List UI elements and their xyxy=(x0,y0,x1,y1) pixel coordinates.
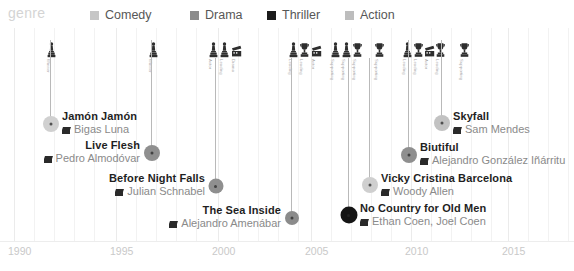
event-dot-center xyxy=(290,217,293,220)
event-label[interactable]: Jamón JamónBigas Luna xyxy=(62,110,137,137)
award-caption: Actor xyxy=(311,59,316,69)
clapperboard-icon xyxy=(44,156,52,163)
masks-icon xyxy=(311,42,322,58)
event-title: Vicky Cristina Barcelona xyxy=(381,172,512,185)
axis-tick-label: 1990 xyxy=(8,245,31,257)
legend-item-comedy[interactable]: Comedy xyxy=(90,8,152,22)
clapperboard-icon xyxy=(169,221,177,228)
statuette-icon xyxy=(46,42,57,58)
clapperboard-icon xyxy=(381,189,389,196)
event-director-row: Ethan Coen, Joel Coen xyxy=(360,215,486,228)
event-title: Skyfall xyxy=(453,110,530,123)
clapperboard-icon xyxy=(62,127,70,134)
event-dot[interactable] xyxy=(401,147,417,163)
event-dot-center xyxy=(368,184,371,187)
event-dot[interactable] xyxy=(208,179,223,194)
trophy-icon xyxy=(299,42,310,58)
legend-item-label: Comedy xyxy=(105,8,152,22)
axis-rule xyxy=(0,241,574,242)
event-dot[interactable] xyxy=(434,115,450,131)
legend-swatch-icon xyxy=(267,11,276,20)
statuette-icon xyxy=(148,42,159,58)
statuette-icon xyxy=(219,42,230,58)
event-director: Bigas Luna xyxy=(74,123,129,136)
legend-item-thriller[interactable]: Thriller xyxy=(267,8,320,22)
clapperboard-icon xyxy=(420,158,428,165)
legend-item-label: Drama xyxy=(205,8,243,22)
event-dot[interactable] xyxy=(144,145,160,161)
axis-tick-label: 1995 xyxy=(110,245,133,257)
event-director: Julian Schnabel xyxy=(127,185,205,198)
event-director-row: Woody Allen xyxy=(381,185,512,198)
event-title: Live Flesh xyxy=(0,139,140,152)
event-director: Pedro Almodóvar xyxy=(56,152,140,165)
event-dot-center xyxy=(440,122,443,125)
statuette-icon xyxy=(330,42,341,58)
event-dot-center xyxy=(347,214,350,217)
event-director-row: Julian Schnabel xyxy=(0,185,205,198)
event-dot-center xyxy=(150,152,153,155)
event-director: Ethan Coen, Joel Coen xyxy=(372,215,486,228)
event-label[interactable]: Live FleshPedro Almodóvar xyxy=(0,139,140,166)
event-director-row: Pedro Almodóvar xyxy=(0,152,140,165)
clapperboard-icon xyxy=(453,127,461,134)
event-dot[interactable] xyxy=(43,116,59,132)
award-caption: Supporting xyxy=(374,59,379,80)
award-caption: Supporting xyxy=(459,59,464,80)
trophy-icon xyxy=(374,42,385,58)
event-director: Alejandro Amenábar xyxy=(181,217,281,230)
legend-title: genre xyxy=(8,5,45,21)
award-caption: Leading xyxy=(219,59,224,75)
legend-item-action[interactable]: Action xyxy=(345,8,395,22)
event-label[interactable]: BiutifulAlejandro González Iñárritu xyxy=(420,141,565,168)
event-director-row: Alejandro Amenábar xyxy=(0,217,281,230)
event-title: Biutiful xyxy=(420,141,565,154)
trophy-icon xyxy=(459,42,470,58)
masks-icon xyxy=(424,42,435,58)
statuette-icon xyxy=(208,42,219,58)
event-label[interactable]: Before Night FallsJulian Schnabel xyxy=(0,172,205,199)
clapperboard-icon xyxy=(360,219,368,226)
axis-tick-label: 2000 xyxy=(212,245,235,257)
award-caption: Supporting xyxy=(341,59,346,80)
event-stem xyxy=(291,58,292,218)
event-dot-center xyxy=(407,154,410,157)
award-caption: Supporting xyxy=(352,59,357,80)
event-dot-center xyxy=(214,185,217,188)
event-dot[interactable] xyxy=(362,177,378,193)
event-label[interactable]: SkyfallSam Mendes xyxy=(453,110,530,137)
legend-swatch-icon xyxy=(190,11,199,20)
event-dot[interactable] xyxy=(340,207,357,224)
event-stem xyxy=(215,58,216,186)
event-stem xyxy=(50,40,51,124)
event-dot[interactable] xyxy=(285,211,299,225)
event-director-row: Sam Mendes xyxy=(453,123,530,136)
gridline xyxy=(548,28,549,241)
event-title: No Country for Old Men xyxy=(360,202,486,215)
event-director: Alejandro González Iñárritu xyxy=(432,154,565,167)
event-director: Woody Allen xyxy=(393,185,454,198)
event-stem xyxy=(151,40,152,153)
event-label[interactable]: Vicky Cristina BarcelonaWoody Allen xyxy=(381,172,512,199)
legend-swatch-icon xyxy=(345,11,354,20)
legend-swatch-icon xyxy=(90,11,99,20)
statuette-icon xyxy=(341,42,352,58)
event-stem xyxy=(408,40,409,155)
event-label[interactable]: No Country for Old MenEthan Coen, Joel C… xyxy=(360,202,486,229)
event-title: The Sea Inside xyxy=(0,204,281,217)
legend-item-label: Thriller xyxy=(282,8,320,22)
event-title: Before Night Falls xyxy=(0,172,205,185)
award-caption: Leading xyxy=(413,59,418,75)
statuette-icon xyxy=(288,42,299,58)
x-axis: 199019952000200520102015 xyxy=(0,241,574,271)
award-caption: Actor xyxy=(208,59,213,69)
legend: genre ComedyDramaThrillerAction xyxy=(0,0,574,28)
clapperboard-icon xyxy=(115,189,123,196)
trophy-icon xyxy=(413,42,424,58)
award-caption: Supporting xyxy=(330,59,335,80)
event-dot-center xyxy=(49,123,52,126)
gridline xyxy=(568,28,569,241)
event-stem xyxy=(348,58,349,215)
event-label[interactable]: The Sea InsideAlejandro Amenábar xyxy=(0,204,281,231)
legend-item-drama[interactable]: Drama xyxy=(190,8,243,22)
